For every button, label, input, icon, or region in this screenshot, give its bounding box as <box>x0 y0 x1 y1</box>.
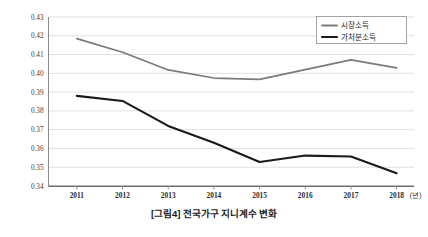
x-axis-tick-label: 2013 <box>161 191 176 200</box>
x-axis-tick-label: 2016 <box>298 191 313 200</box>
x-axis-tick-label: 2018 <box>389 191 404 200</box>
line-chart: 0.340.350.360.370.380.390.400.410.420.43… <box>0 0 428 205</box>
y-axis-tick-label: 0.43 <box>31 14 44 22</box>
y-axis-tick-label: 0.42 <box>31 32 44 40</box>
y-axis-tick-label: 0.38 <box>31 107 44 115</box>
x-axis-tick-label: 2015 <box>252 191 267 200</box>
series-line-disposable-income <box>77 96 397 173</box>
x-axis-tick-labels: 20112012201320142015201620172018 <box>70 191 405 200</box>
legend-label: 가처분소득 <box>341 33 376 42</box>
y-axis-tick-label: 0.41 <box>31 51 44 59</box>
figure-gini-coefficient: 0.340.350.360.370.380.390.400.410.420.43… <box>0 0 428 237</box>
y-axis-tick-labels: 0.340.350.360.370.380.390.400.410.420.43 <box>31 14 44 191</box>
figure-caption: [그림4] 전국가구 지니계수 변화 <box>0 206 428 220</box>
legend-label: 시장소득 <box>341 20 369 30</box>
y-axis-tick-label: 0.35 <box>31 164 44 172</box>
y-axis-tick-label: 0.40 <box>31 70 44 78</box>
y-axis-tick-label: 0.36 <box>31 145 44 153</box>
y-axis-tick-label: 0.39 <box>31 89 44 97</box>
x-axis-tick-label: 2012 <box>115 191 130 200</box>
x-axis-tick-label: 2014 <box>206 191 221 200</box>
y-axis-tick-label: 0.34 <box>31 183 44 191</box>
chart-plot-area: 0.340.350.360.370.380.390.400.410.420.43… <box>0 0 428 205</box>
x-axis-unit-label: (년) <box>410 191 422 200</box>
legend: 시장소득가처분소득 <box>317 17 407 44</box>
x-axis-tick-label: 2017 <box>344 191 359 200</box>
x-axis-tick-label: 2011 <box>70 191 85 200</box>
y-axis-tick-label: 0.37 <box>31 126 44 134</box>
